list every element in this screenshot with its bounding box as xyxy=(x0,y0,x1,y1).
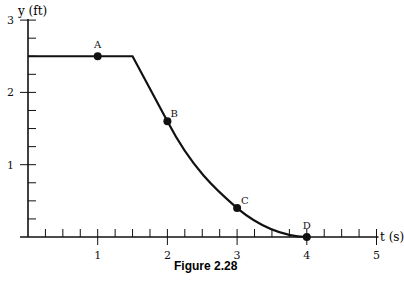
figure-caption: Figure 2.28 xyxy=(174,259,238,273)
y-axis-label: y (ft) xyxy=(17,4,47,18)
x-tick-label: 5 xyxy=(373,249,380,262)
point-label-c: C xyxy=(241,195,249,206)
data-points: ABCD xyxy=(93,39,311,241)
x-tick-label: 2 xyxy=(164,249,171,262)
point-label-a: A xyxy=(93,39,102,50)
point-d xyxy=(303,233,311,241)
y-tick-label: 3 xyxy=(7,14,14,27)
x-tick-label: 1 xyxy=(94,249,101,262)
data-line xyxy=(28,56,307,237)
point-label-b: B xyxy=(170,108,177,119)
y-tick-label: 1 xyxy=(7,159,14,172)
y-tick-label: 2 xyxy=(7,86,14,99)
x-tick-label: 4 xyxy=(303,249,310,262)
chart: 12345123 ABCD y (ft) t (s) Figure 2.28 xyxy=(0,0,404,283)
curve xyxy=(28,56,307,237)
x-axis-label: t (s) xyxy=(380,230,404,244)
axes: 12345123 xyxy=(7,14,380,262)
point-label-d: D xyxy=(303,220,311,231)
point-a xyxy=(94,52,102,60)
point-c xyxy=(233,204,241,212)
